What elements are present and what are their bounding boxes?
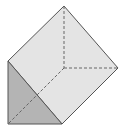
- triangular-prism-diagram: [0, 0, 128, 131]
